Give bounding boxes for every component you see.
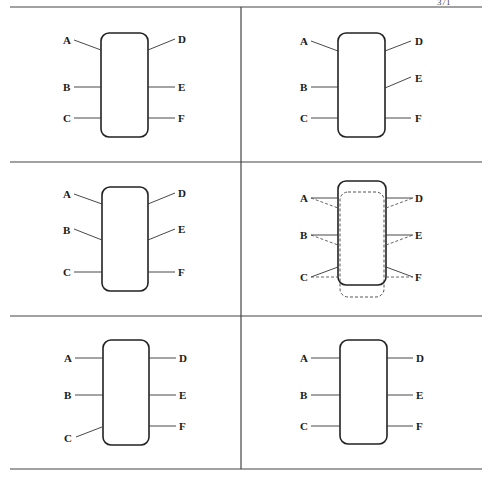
lead-d (148, 193, 175, 204)
lead-c (76, 427, 102, 437)
label-e: E (415, 72, 422, 84)
panel-middle-left: A B C D E F (63, 187, 186, 291)
diagram-canvas: 371 A B C D E F A B C D E F (0, 0, 495, 479)
component-body (103, 340, 149, 445)
lead-d (148, 39, 175, 50)
lead-a (311, 41, 338, 51)
label-d: D (415, 192, 423, 204)
grid-frame (10, 7, 482, 469)
label-e: E (178, 81, 185, 93)
label-a: A (64, 352, 72, 364)
panel-top-left: A B C D E F (63, 33, 186, 137)
panel-top-right: A B C D E F (300, 33, 423, 137)
label-d: D (178, 33, 186, 45)
displaced-component-body (338, 181, 386, 285)
lead-a-dashed (311, 198, 338, 208)
label-a: A (63, 34, 71, 46)
original-position-outline (340, 192, 384, 297)
label-d: D (179, 352, 187, 364)
label-e: E (179, 389, 186, 401)
label-c: C (300, 271, 308, 283)
lead-e (148, 229, 175, 240)
label-a: A (300, 35, 308, 47)
label-f: F (416, 420, 423, 432)
lead-c-solid (311, 267, 338, 277)
label-c: C (300, 112, 308, 124)
label-e: E (178, 223, 185, 235)
label-f: F (178, 266, 185, 278)
lead-d-dashed (386, 198, 413, 208)
label-f: F (178, 112, 185, 124)
label-c: C (64, 432, 72, 444)
label-d: D (416, 352, 424, 364)
page-mark: 371 (437, 0, 451, 7)
label-c: C (63, 112, 71, 124)
label-f: F (179, 420, 186, 432)
label-b: B (300, 81, 308, 93)
label-b: B (300, 389, 308, 401)
label-d: D (415, 35, 423, 47)
label-f: F (415, 271, 422, 283)
label-d: D (178, 187, 186, 199)
component-body (338, 33, 385, 137)
label-a: A (300, 192, 308, 204)
label-b: B (63, 224, 71, 236)
lead-f-solid (386, 267, 413, 277)
label-a: A (63, 188, 71, 200)
lead-e-dashed (386, 235, 413, 245)
label-f: F (415, 112, 422, 124)
lead-d (385, 41, 411, 51)
label-b: B (64, 389, 72, 401)
label-c: C (63, 266, 71, 278)
lead-a (74, 194, 102, 204)
lead-b-dashed (311, 235, 338, 245)
lead-a (74, 40, 101, 50)
label-a: A (300, 352, 308, 364)
lead-e (385, 77, 411, 88)
label-e: E (416, 389, 423, 401)
label-b: B (300, 229, 308, 241)
component-body (340, 340, 387, 444)
label-e: E (415, 229, 422, 241)
lead-b (74, 229, 102, 240)
label-c: C (300, 420, 308, 432)
panel-bottom-right: A B C D E F (300, 340, 424, 444)
panel-middle-right: A B C D E F (300, 181, 423, 297)
panel-bottom-left: A B C D E F (64, 340, 187, 445)
label-b: B (63, 81, 71, 93)
component-body (102, 187, 148, 291)
component-body (101, 33, 148, 137)
